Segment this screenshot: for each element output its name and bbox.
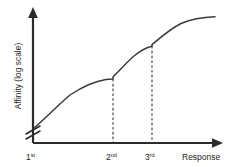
affinity-response-plot: 1st 2nd 3rd Response <box>0 0 241 167</box>
x-tick-ordinal-suffix-3rd: rd <box>150 152 155 158</box>
affinity-curve <box>34 17 215 128</box>
y-axis-arrowhead <box>28 7 38 18</box>
x-tick-ordinal-suffix-1st: st <box>31 152 36 158</box>
x-axis-arrowhead <box>212 138 223 148</box>
x-tick-label-3rd: 3rd <box>145 152 155 162</box>
x-axis-title: Response <box>182 152 221 162</box>
chart-figure: 1st 2nd 3rd Response Affinity (log scale… <box>0 0 241 167</box>
x-tick-label-2nd: 2nd <box>106 152 117 162</box>
x-tick-ordinal-suffix-2nd: nd <box>111 152 117 158</box>
x-tick-label-1st: 1st <box>26 152 36 162</box>
